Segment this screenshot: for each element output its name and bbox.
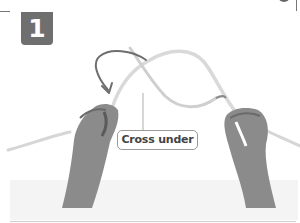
step-callout-label: Cross under <box>117 130 198 150</box>
step-number-badge: 1 <box>21 12 53 45</box>
